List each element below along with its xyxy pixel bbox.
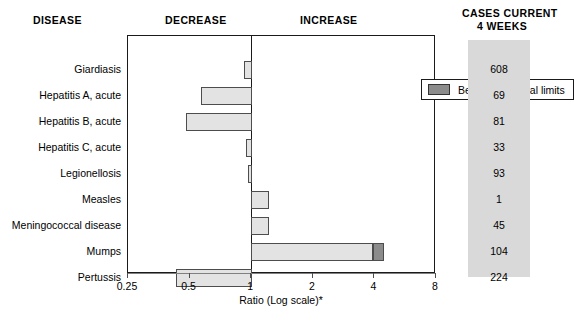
bar-measles <box>251 191 269 209</box>
bar-row <box>128 161 434 187</box>
disease-label: Giardiasis <box>1 56 121 82</box>
cases-value: 1 <box>468 186 530 212</box>
disease-label: Hepatitis A, acute <box>1 82 121 108</box>
x-axis-tick-label: 0.5 <box>181 280 196 292</box>
bar-segment-beyond-historical-limits <box>373 243 384 261</box>
cases-value: 33 <box>468 134 530 160</box>
region-label-increase: INCREASE <box>300 14 357 26</box>
x-axis-tick-label: 0.25 <box>117 280 137 292</box>
cases-value: 104 <box>468 238 530 264</box>
disease-label: Mumps <box>1 238 121 264</box>
disease-label: Measles <box>1 186 121 212</box>
bar-row <box>128 135 434 161</box>
bar-row <box>128 187 434 213</box>
disease-label: Legionellosis <box>1 160 121 186</box>
cases-value: 93 <box>468 160 530 186</box>
column-header-disease: DISEASE <box>33 14 82 26</box>
cases-value: 69 <box>468 82 530 108</box>
cases-value: 81 <box>468 108 530 134</box>
x-axis-tick <box>373 273 374 278</box>
disease-label: Meningococcal disease <box>1 212 121 238</box>
disease-label: Pertussis <box>1 264 121 290</box>
bar-hepatitis-b-acute <box>186 113 252 131</box>
legend-swatch-beyond-limits <box>428 84 450 95</box>
cases-header-line2: 4 WEEKS <box>462 20 542 33</box>
bar-hepatitis-c-acute <box>246 139 252 157</box>
x-axis-title: Ratio (Log scale)* <box>127 294 435 306</box>
x-axis-tick <box>312 273 313 278</box>
x-axis-tick <box>127 273 128 278</box>
x-axis-tick <box>189 273 190 278</box>
chart-plot-area: Beyond historical limits <box>127 35 435 273</box>
x-axis-tick-label: 1 <box>247 280 253 292</box>
disease-label: Hepatitis C, acute <box>1 134 121 160</box>
cases-values-panel: 60869813393145104224 <box>468 40 530 277</box>
cases-value: 224 <box>468 264 530 290</box>
bar-row <box>128 239 434 265</box>
bar-row <box>128 213 434 239</box>
bar-row <box>128 83 434 109</box>
bar-giardiasis <box>244 61 252 79</box>
cases-value: 45 <box>468 212 530 238</box>
bar-mumps <box>251 243 373 261</box>
disease-label-column: GiardiasisHepatitis A, acuteHepatitis B,… <box>0 35 121 273</box>
cases-value: 608 <box>468 56 530 82</box>
bar-row <box>128 57 434 83</box>
bar-row <box>128 265 434 291</box>
bar-hepatitis-a-acute <box>201 87 252 105</box>
x-axis: 0.250.51248 <box>127 273 435 274</box>
column-header-cases: CASES CURRENT 4 WEEKS <box>462 7 542 33</box>
bar-meningococcal-disease <box>251 217 269 235</box>
cases-header-line1: CASES CURRENT <box>462 7 542 20</box>
x-axis-tick-label: 4 <box>370 280 376 292</box>
disease-label: Hepatitis B, acute <box>1 108 121 134</box>
x-axis-tick <box>435 273 436 278</box>
x-axis-tick-label: 8 <box>432 280 438 292</box>
x-axis-tick <box>250 273 251 278</box>
region-label-decrease: DECREASE <box>165 14 227 26</box>
x-axis-tick-label: 2 <box>309 280 315 292</box>
bar-legionellosis <box>248 165 252 183</box>
bar-row <box>128 109 434 135</box>
